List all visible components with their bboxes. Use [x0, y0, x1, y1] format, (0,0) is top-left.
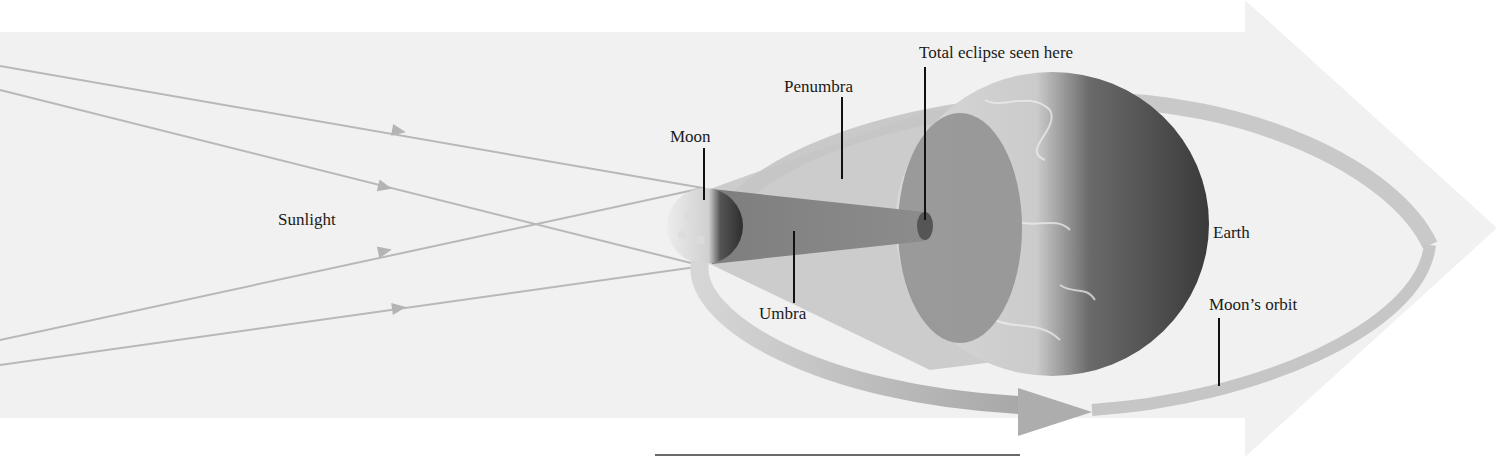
umbra-label: Umbra	[759, 305, 806, 322]
moons-orbit-label: Moon’s orbit	[1209, 296, 1297, 313]
penumbra-label: Penumbra	[784, 78, 853, 95]
earth-label: Earth	[1213, 224, 1250, 241]
sunlight-label: Sunlight	[278, 211, 336, 228]
eclipse-diagram: Sunlight Moon Penumbra Total eclipse see…	[0, 0, 1497, 457]
total-eclipse-label: Total eclipse seen here	[919, 44, 1073, 61]
diagram-canvas	[0, 0, 1497, 457]
moons-orbit-leader-line	[1218, 318, 1220, 386]
moon	[667, 188, 743, 264]
moon-label: Moon	[670, 128, 711, 145]
moon-leader-line	[703, 148, 705, 200]
umbra-leader-line	[793, 231, 795, 303]
total-eclipse-leader-line	[924, 67, 926, 220]
penumbra-leader-line	[841, 97, 843, 179]
